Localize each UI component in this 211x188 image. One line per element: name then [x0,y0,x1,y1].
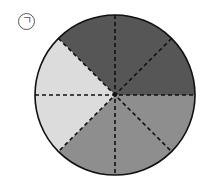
fraction-circle [0,0,211,188]
